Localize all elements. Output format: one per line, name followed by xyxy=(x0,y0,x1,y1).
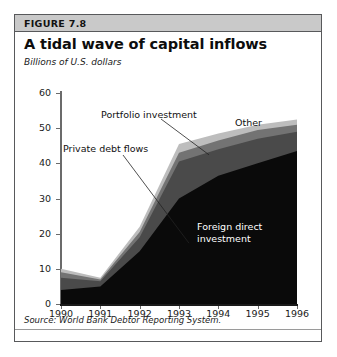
x-tick-label-1996: 1996 xyxy=(277,308,317,319)
y-tick-mark-20 xyxy=(56,234,60,235)
y-tick-label-30: 30 xyxy=(15,193,51,204)
x-tick-mark-1996 xyxy=(297,306,298,309)
x-tick-mark-1992 xyxy=(140,306,141,309)
y-tick-mark-0 xyxy=(56,304,60,305)
y-tick-mark-50 xyxy=(56,128,60,129)
y-tick-label-50: 50 xyxy=(15,122,51,133)
annotation-private-debt-flows: Private debt flows xyxy=(63,143,148,154)
y-tick-label-40: 40 xyxy=(15,157,51,168)
annotation-other: Other xyxy=(235,117,262,128)
figure-number-label: FIGURE 7.8 xyxy=(24,18,86,29)
y-tick-mark-10 xyxy=(56,269,60,270)
chart-plot-wrapper: 0102030405060 19901991199219931994199519… xyxy=(15,73,323,321)
figure-card: FIGURE 7.8 A tidal wave of capital inflo… xyxy=(14,14,322,342)
y-tick-label-60: 60 xyxy=(15,87,51,98)
x-tick-mark-1991 xyxy=(100,306,101,309)
x-tick-mark-1993 xyxy=(179,306,180,309)
y-tick-label-10: 10 xyxy=(15,263,51,274)
y-tick-mark-40 xyxy=(56,163,60,164)
x-tick-mark-1990 xyxy=(61,306,62,309)
y-tick-mark-60 xyxy=(56,93,60,94)
annotation-portfolio-investment: Portfolio investment xyxy=(101,109,197,120)
y-tick-mark-30 xyxy=(56,199,60,200)
annotation-fdi-line1: Foreign direct xyxy=(197,221,262,232)
source-divider xyxy=(15,329,321,330)
chart-units-label: Billions of U.S. dollars xyxy=(24,57,121,67)
annotation-fdi-line2: investment xyxy=(197,233,251,244)
y-tick-label-20: 20 xyxy=(15,228,51,239)
x-tick-mark-1994 xyxy=(218,306,219,309)
x-tick-label-1995: 1995 xyxy=(238,308,278,319)
figure-title: A tidal wave of capital inflows xyxy=(24,36,267,52)
x-tick-mark-1995 xyxy=(258,306,259,309)
source-note: Source: World Bank Debtor Reporting Syst… xyxy=(24,315,221,325)
